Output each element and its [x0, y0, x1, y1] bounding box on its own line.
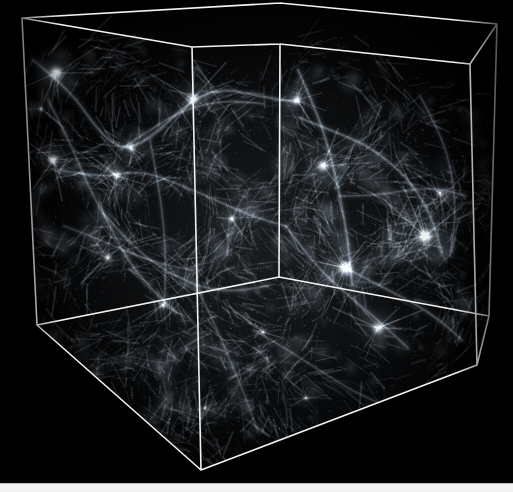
simulation-render-area	[0, 0, 513, 483]
page-strip-divider	[0, 483, 513, 484]
dark-matter-density-canvas	[0, 0, 513, 483]
cosmic-web-volume	[0, 0, 513, 483]
page-bottom-strip	[0, 483, 513, 492]
figure-canvas: Cosmological N-body simulation volume	[0, 0, 513, 492]
